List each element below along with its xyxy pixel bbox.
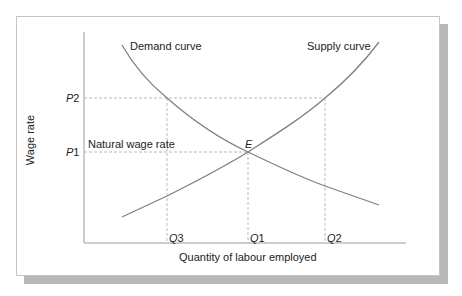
natural-wage-rate-label: Natural wage rate [88, 139, 175, 150]
q1-tick-label: Q1 [250, 233, 265, 244]
x-axis-label: Quantity of labour employed [179, 252, 317, 263]
y-axis-label: Wage rate [24, 115, 36, 165]
supply-curve-label: Supply curve [307, 41, 371, 52]
q2-tick-label: Q2 [327, 233, 342, 244]
demand-curve [122, 45, 379, 205]
p2-tick-label: P2 [66, 93, 79, 104]
demand-curve-label: Demand curve [130, 41, 202, 52]
equilibrium-label: E [245, 139, 252, 150]
q3-tick-label: Q3 [169, 233, 184, 244]
p1-tick-label: P1 [66, 147, 79, 158]
